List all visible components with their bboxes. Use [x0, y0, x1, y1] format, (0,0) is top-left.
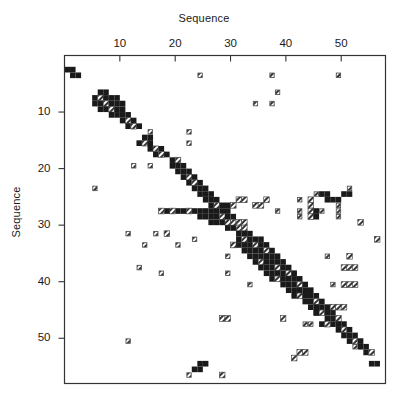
matrix-cell [336, 316, 342, 322]
matrix-cell [330, 197, 336, 203]
matrix-cell [114, 106, 120, 112]
matrix-cell [253, 259, 259, 265]
x-tick-label: 20 [160, 37, 190, 49]
matrix-cell [247, 236, 253, 242]
matrix-cell [225, 203, 231, 209]
matrix-cell [298, 214, 302, 218]
matrix-cell [269, 259, 275, 265]
matrix-cell [280, 265, 286, 271]
matrix-cell [264, 270, 270, 276]
matrix-cell [325, 304, 331, 310]
matrix-cell [291, 287, 297, 293]
matrix-cell [131, 118, 137, 124]
matrix-cell [275, 253, 281, 259]
matrix-cell [291, 355, 297, 361]
matrix-cell [197, 367, 203, 373]
matrix-cell [214, 203, 220, 209]
matrix-cell [286, 276, 292, 282]
matrix-cell [280, 276, 286, 282]
matrix-cell [341, 333, 347, 339]
matrix-cell [363, 350, 369, 356]
matrix-cell [109, 106, 115, 112]
matrix-cell [192, 367, 198, 373]
matrix-cell [176, 243, 180, 247]
matrix-cell [280, 316, 286, 322]
matrix-cell [231, 242, 237, 248]
matrix-cell [214, 220, 220, 226]
matrix-cell [269, 270, 275, 276]
matrix-cell [314, 299, 320, 305]
matrix-cell [374, 236, 380, 242]
matrix-cell [192, 186, 198, 192]
matrix-cell [270, 101, 274, 105]
matrix-cell [336, 304, 342, 310]
matrix-cell [170, 157, 176, 163]
matrix-cell [175, 163, 181, 169]
matrix-cell [352, 265, 358, 271]
matrix-cell [358, 220, 364, 226]
matrix-cell [148, 140, 154, 146]
matrix-cell [242, 220, 248, 226]
matrix-cell [303, 322, 307, 326]
matrix-cell [242, 248, 248, 254]
matrix-cell [136, 140, 142, 146]
matrix-cell [264, 265, 270, 271]
matrix-cell [236, 197, 242, 203]
matrix-cell [319, 310, 325, 316]
matrix-cell [330, 304, 336, 310]
matrix-cell [325, 197, 331, 203]
matrix-cell [159, 146, 165, 152]
matrix-cell [103, 89, 109, 95]
matrix-cell [264, 197, 270, 203]
matrix-cell [258, 253, 264, 259]
matrix-cell [225, 225, 231, 231]
matrix-cell [302, 299, 308, 305]
matrix-cell [314, 214, 320, 220]
matrix-cell [197, 186, 203, 192]
matrix-cell [258, 265, 264, 271]
matrix-cell [109, 112, 115, 118]
matrix-cell [352, 333, 358, 339]
matrix-cell [225, 214, 231, 220]
matrix-cell [225, 220, 231, 226]
matrix-cell [363, 344, 369, 350]
matrix-cell [275, 276, 281, 282]
matrix-cell [253, 242, 259, 248]
matrix-cell [314, 208, 320, 214]
matrix-cell [347, 338, 353, 344]
matrix-cell [336, 327, 342, 333]
x-tick-label: 30 [216, 37, 246, 49]
matrix-cell [186, 180, 192, 186]
matrix-cell [192, 237, 196, 241]
matrix-cell [225, 208, 231, 214]
matrix-cell [132, 164, 136, 168]
matrix-cell [197, 191, 203, 197]
matrix-cell [142, 135, 148, 141]
x-tick-label: 50 [326, 37, 356, 49]
matrix-cell [319, 191, 325, 197]
matrix-cell [203, 208, 209, 214]
matrix-cell [275, 90, 279, 94]
matrix-cell [352, 282, 358, 288]
matrix-cell [298, 197, 302, 201]
matrix-cell [264, 248, 270, 254]
matrix-cell [103, 95, 109, 101]
matrix-cell [197, 214, 203, 220]
matrix-cell [264, 242, 270, 248]
matrix-cell [347, 333, 353, 339]
matrix-cell [164, 208, 170, 214]
matrix-cell [253, 203, 259, 209]
matrix-cell [258, 242, 264, 248]
matrix-cell [242, 225, 248, 231]
matrix-cell [286, 265, 292, 271]
matrix-cell [269, 248, 275, 254]
matrix-cell [325, 310, 331, 316]
matrix-cell [208, 220, 214, 226]
matrix-cell [92, 95, 98, 101]
matrix-cell [353, 345, 357, 349]
matrix-cell [325, 321, 331, 327]
y-tick-label: 10 [21, 105, 51, 117]
matrix-cell [187, 141, 191, 145]
matrix-cell [358, 338, 364, 344]
matrix-cell [76, 72, 82, 78]
